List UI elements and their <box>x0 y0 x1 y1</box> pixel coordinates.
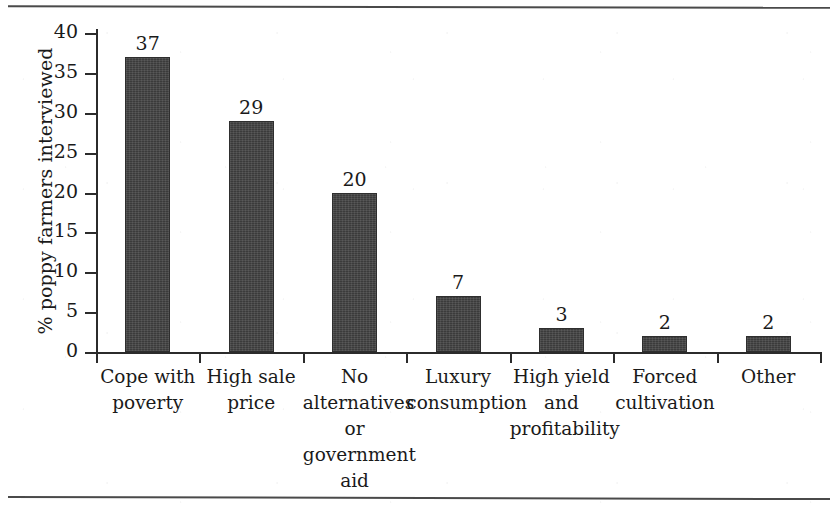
x-tick-5 <box>613 352 615 363</box>
bar: 7 <box>436 296 481 352</box>
category-label-line: alternatives <box>303 390 406 416</box>
bar: 2 <box>746 336 791 352</box>
y-axis-line <box>96 29 98 356</box>
category-label-line: Other <box>717 364 820 390</box>
category-label-line: aid <box>303 468 406 494</box>
y-tick-35: 35 <box>85 73 96 75</box>
category-label-line: price <box>199 390 302 416</box>
category-label-line: consumption <box>406 390 509 416</box>
bar-value-label: 2 <box>659 313 671 332</box>
category-label-line: No <box>303 364 406 390</box>
bar-value-label: 3 <box>555 305 567 324</box>
bar-value-label: 7 <box>452 273 464 292</box>
y-tick-label: 5 <box>66 301 78 320</box>
y-tick-label: 35 <box>54 62 78 81</box>
category-label-line: and <box>510 390 613 416</box>
bar: 37 <box>125 57 170 352</box>
category-label: Forcedcultivation <box>613 364 716 416</box>
category-label: Luxuryconsumption <box>406 364 509 416</box>
y-axis-title: % poppy farmers interviewed <box>34 26 56 356</box>
x-tick-2 <box>303 352 305 363</box>
y-tick-label: 10 <box>54 261 78 280</box>
category-label-line: High sale <box>199 364 302 390</box>
y-tick-label: 15 <box>54 221 78 240</box>
bar: 29 <box>229 121 274 352</box>
bar-value-label: 20 <box>342 170 366 189</box>
y-tick-label: 30 <box>54 102 78 121</box>
category-label: Noalternativesorgovernmentaid <box>303 364 406 494</box>
x-axis-line <box>96 352 820 354</box>
category-label-line: government <box>303 442 406 468</box>
x-tick-0 <box>96 352 98 363</box>
category-label: Cope withpoverty <box>96 364 199 416</box>
bar: 2 <box>642 336 687 352</box>
category-label-line: Luxury <box>406 364 509 390</box>
bar-value-label: 29 <box>239 98 263 117</box>
category-label: High yieldandprofitability <box>510 364 613 442</box>
y-tick-20: 20 <box>85 193 96 195</box>
x-tick-3 <box>406 352 408 363</box>
bar: 3 <box>539 328 584 352</box>
category-label: High saleprice <box>199 364 302 416</box>
y-tick-label: 20 <box>54 182 78 201</box>
y-tick-30: 30 <box>85 113 96 115</box>
plot-area: 0510152025303540 3729207322 <box>96 33 820 352</box>
y-tick-40: 40 <box>85 33 96 35</box>
category-label-line: Cope with <box>96 364 199 390</box>
category-label-line: Forced <box>613 364 716 390</box>
bar-value-label: 2 <box>762 313 774 332</box>
x-tick-6 <box>717 352 719 363</box>
category-label-line: High yield <box>510 364 613 390</box>
y-tick-25: 25 <box>85 153 96 155</box>
bar-chart-figure: % poppy farmers interviewed 051015202530… <box>0 0 836 515</box>
x-tick-4 <box>510 352 512 363</box>
category-label-line: profitability <box>510 416 613 442</box>
bar: 20 <box>332 193 377 353</box>
y-tick-10: 10 <box>85 272 96 274</box>
x-tick-1 <box>199 352 201 363</box>
category-label-line: cultivation <box>613 390 716 416</box>
y-tick-label: 0 <box>66 341 78 360</box>
x-tick-7 <box>820 352 822 363</box>
category-label-line: poverty <box>96 390 199 416</box>
y-tick-5: 5 <box>85 312 96 314</box>
y-tick-0: 0 <box>85 352 96 354</box>
y-tick-label: 25 <box>54 142 78 161</box>
category-label-line: or <box>303 416 406 442</box>
y-tick-15: 15 <box>85 232 96 234</box>
bar-value-label: 37 <box>136 34 160 53</box>
y-tick-label: 40 <box>54 22 78 41</box>
category-label: Other <box>717 364 820 390</box>
